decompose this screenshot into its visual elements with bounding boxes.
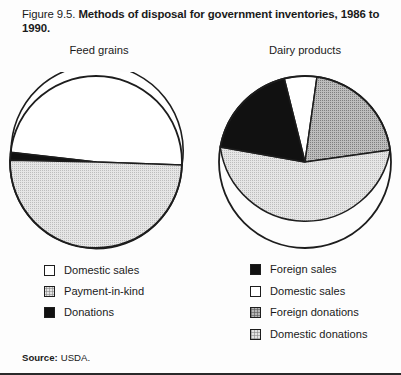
panel-label-dairy-products: Dairy products xyxy=(240,44,370,56)
figure-title-text: Methods of disposal for government inven… xyxy=(22,8,379,34)
legend-dairy-products: Foreign sales Domestic sales Foreign don… xyxy=(250,259,367,345)
square-white-icon xyxy=(250,286,261,297)
legend-label: Foreign sales xyxy=(270,264,337,275)
panel-label-feed-grains: Feed grains xyxy=(40,44,158,56)
legend-label: Domestic sales xyxy=(64,265,139,276)
pie-slice-payment-in-kind xyxy=(10,160,182,248)
pie-slice-foreign-donations xyxy=(305,77,390,162)
legend-item: Foreign donations xyxy=(250,302,367,324)
pie-slice-domestic-sales xyxy=(11,72,183,165)
legend-label: Foreign donations xyxy=(270,307,359,318)
figure-title: Figure 9.5. Methods of disposal for gove… xyxy=(22,7,384,35)
legend-item: Payment-in-kind xyxy=(44,281,144,302)
square-midgray-icon xyxy=(250,307,261,318)
pie-chart-feed-grains xyxy=(6,72,190,254)
legend-item: Domestic donations xyxy=(250,324,367,346)
source-label: Source: xyxy=(22,352,58,363)
source-note: Source:USDA. xyxy=(22,352,90,363)
legend-label: Domestic donations xyxy=(270,329,367,340)
legend-label: Domestic sales xyxy=(270,286,345,297)
square-lightgray-icon xyxy=(250,329,261,340)
legend-item: Domestic sales xyxy=(44,260,144,281)
legend-item: Donations xyxy=(44,302,144,323)
source-value: USDA. xyxy=(61,352,90,363)
square-white-icon xyxy=(44,265,55,276)
square-black-icon xyxy=(44,307,55,318)
pie-chart-dairy-products xyxy=(212,72,401,254)
legend-item: Foreign sales xyxy=(250,259,367,281)
figure-container: Figure 9.5. Methods of disposal for gove… xyxy=(0,0,401,375)
square-lightgray-icon xyxy=(44,286,55,297)
legend-item: Domestic sales xyxy=(250,281,367,303)
square-black-icon xyxy=(250,264,261,275)
legend-label: Payment-in-kind xyxy=(64,286,144,297)
legend-feed-grains: Domestic sales Payment-in-kind Donations xyxy=(44,260,144,323)
legend-label: Donations xyxy=(64,307,114,318)
figure-number-label: Figure 9.5. xyxy=(22,8,75,20)
